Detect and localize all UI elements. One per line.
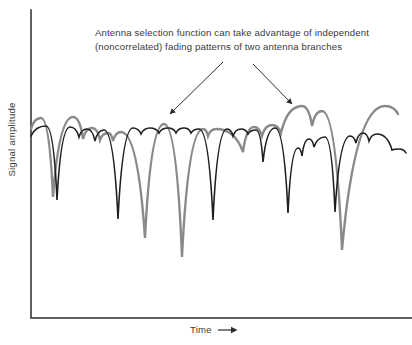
annotation-line-1: Antenna selection function can take adva… bbox=[95, 26, 369, 40]
x-axis-label-group: Time bbox=[190, 324, 238, 335]
y-axis-label: Signal amplitude bbox=[6, 93, 17, 187]
branch1-fading-curve bbox=[31, 126, 406, 220]
fading-patterns-figure: Antenna selection function can take adva… bbox=[0, 0, 412, 345]
annotation-text: Antenna selection function can take adva… bbox=[95, 26, 369, 54]
annotation-arrow-right bbox=[253, 64, 292, 104]
time-axis-arrow-icon bbox=[218, 326, 238, 334]
x-axis-label: Time bbox=[190, 324, 212, 335]
annotation-line-2: (noncorrelated) fading patterns of two a… bbox=[95, 40, 369, 54]
annotation-arrow-left bbox=[170, 62, 223, 114]
